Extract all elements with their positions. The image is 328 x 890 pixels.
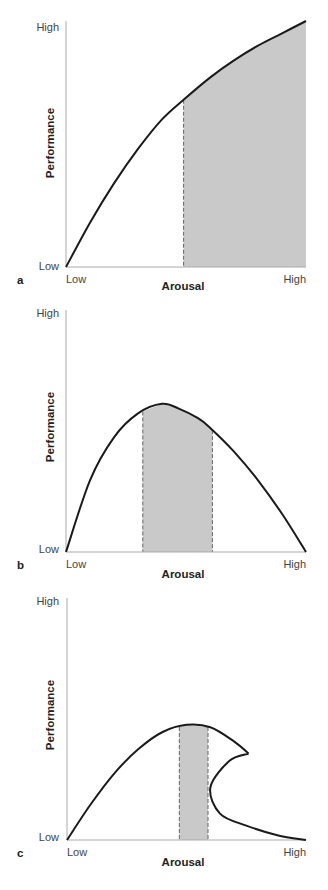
panel-a-shaded-region <box>184 21 306 267</box>
panel-b-shaded-region <box>143 404 213 552</box>
panel-a-x-tick-low: Low <box>66 273 86 285</box>
panel-b-letter: b <box>17 559 24 571</box>
panel-b-y-tick-low: Low <box>39 543 59 555</box>
panel-a-letter: a <box>17 274 24 286</box>
panel-c-x-tick-high: High <box>283 846 306 858</box>
panel-b-y-tick-high: High <box>36 307 59 319</box>
panel-c-letter: c <box>17 847 24 859</box>
panel-b-y-label: Performance <box>44 392 56 462</box>
panel-c-x-tick-low: Low <box>67 846 87 858</box>
panel-c: High Low Low High Arousal Performance c <box>17 595 306 868</box>
panel-a-x-tick-high: High <box>283 273 306 285</box>
panel-b-x-label: Arousal <box>162 568 205 580</box>
panel-a-y-label: Performance <box>44 108 56 178</box>
panel-a-y-tick-high: High <box>36 21 59 33</box>
panel-c-y-label: Performance <box>44 680 56 750</box>
panel-b-x-tick-high: High <box>283 558 306 570</box>
panel-a-y-tick-low: Low <box>39 260 59 272</box>
panel-a: High Low Low High Arousal Performance a <box>17 21 306 292</box>
panel-a-x-label: Arousal <box>162 280 205 292</box>
panel-c-y-tick-high: High <box>36 595 59 607</box>
panel-c-x-label: Arousal <box>162 856 205 868</box>
panel-c-shaded-region <box>179 725 208 840</box>
panel-b-x-tick-low: Low <box>66 558 86 570</box>
panel-c-y-tick-low: Low <box>39 831 59 843</box>
figure: High Low Low High Arousal Performance a … <box>0 0 328 890</box>
panel-b: High Low Low High Arousal Performance b <box>17 307 306 580</box>
